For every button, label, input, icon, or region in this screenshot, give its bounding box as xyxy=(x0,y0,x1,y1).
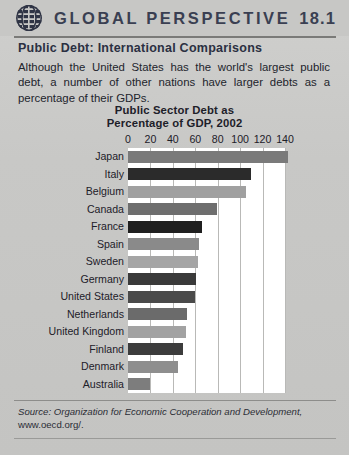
category-label-canada: Canada xyxy=(0,203,124,215)
figure-intro-text: Although the United States has the world… xyxy=(18,60,330,106)
chart-title: Public Sector Debt as Percentage of GDP,… xyxy=(0,104,349,131)
category-label-germany: Germany xyxy=(0,273,124,285)
header-divider xyxy=(14,36,336,38)
bar-fill xyxy=(128,326,186,338)
header-band: GLOBAL PERSPECTIVE 18.1 xyxy=(0,0,349,36)
bar-chart: 020406080100120140 JapanItalyBelgiumCana… xyxy=(0,133,349,396)
chart-title-line2: Percentage of GDP, 2002 xyxy=(0,117,349,130)
category-labels: JapanItalyBelgiumCanadaFranceSpainSweden… xyxy=(0,148,124,393)
bar-australia xyxy=(128,378,150,390)
category-label-finland: Finland xyxy=(0,343,124,355)
bar-netherlands xyxy=(128,308,187,320)
bar-fill xyxy=(128,256,198,268)
category-label-spain: Spain xyxy=(0,238,124,250)
category-label-united-kingdom: United Kingdom xyxy=(0,325,124,337)
bar-denmark xyxy=(128,361,178,373)
category-label-france: France xyxy=(0,220,124,232)
x-axis-tick-40: 40 xyxy=(167,133,179,145)
category-label-netherlands: Netherlands xyxy=(0,308,124,320)
x-axis-tick-140: 140 xyxy=(276,133,294,145)
global-perspective-title: GLOBAL PERSPECTIVE xyxy=(54,9,290,28)
bar-belgium xyxy=(128,186,246,198)
globe-grid-icon xyxy=(12,3,46,33)
x-axis-tick-100: 100 xyxy=(231,133,249,145)
source-divider xyxy=(14,400,336,401)
bottom-divider xyxy=(14,438,336,439)
bar-fill xyxy=(128,186,246,198)
gridline-140 xyxy=(285,148,286,393)
category-label-italy: Italy xyxy=(0,168,124,180)
bar-fill xyxy=(128,361,178,373)
bar-france xyxy=(128,221,202,233)
bar-united-states xyxy=(128,291,195,303)
bar-fill xyxy=(128,378,150,390)
source-note: Source: Organization for Economic Cooper… xyxy=(18,406,318,431)
global-perspective-figure: GLOBAL PERSPECTIVE 18.1 Public Debt: Int… xyxy=(0,0,349,455)
figure-subtitle: Public Debt: International Comparisons xyxy=(18,41,333,55)
x-axis-tick-120: 120 xyxy=(254,133,272,145)
category-label-belgium: Belgium xyxy=(0,185,124,197)
chart-title-line1: Public Sector Debt as xyxy=(0,104,349,117)
bar-spain xyxy=(128,238,199,250)
x-axis-tick-0: 0 xyxy=(125,133,131,145)
bar-united-kingdom xyxy=(128,326,186,338)
bar-fill xyxy=(128,308,187,320)
x-axis-tick-80: 80 xyxy=(212,133,224,145)
bar-fill xyxy=(128,343,183,355)
bar-canada xyxy=(128,203,217,215)
bar-japan xyxy=(128,151,288,163)
bar-fill xyxy=(128,221,202,233)
bar-sweden xyxy=(128,256,198,268)
x-axis-tick-60: 60 xyxy=(189,133,201,145)
category-label-australia: Australia xyxy=(0,378,124,390)
bar-fill xyxy=(128,203,217,215)
category-label-denmark: Denmark xyxy=(0,360,124,372)
x-axis-tick-20: 20 xyxy=(145,133,157,145)
source-url: www.oecd.org/. xyxy=(18,419,84,430)
figure-number: 18.1 xyxy=(299,9,336,28)
bar-fill xyxy=(128,238,199,250)
plot-area xyxy=(128,148,285,393)
category-label-sweden: Sweden xyxy=(0,255,124,267)
bar-series xyxy=(128,148,285,393)
bar-finland xyxy=(128,343,183,355)
bar-fill xyxy=(128,291,195,303)
category-label-japan: Japan xyxy=(0,150,124,162)
x-axis-ticks: 020406080100120140 xyxy=(0,133,349,147)
category-label-united-states: United States xyxy=(0,290,124,302)
bar-italy xyxy=(128,168,251,180)
bar-fill xyxy=(128,168,251,180)
bar-germany xyxy=(128,273,196,285)
bar-fill xyxy=(128,151,288,163)
bar-fill xyxy=(128,273,196,285)
source-prefix: Source: Organization for Economic Cooper… xyxy=(18,406,302,417)
